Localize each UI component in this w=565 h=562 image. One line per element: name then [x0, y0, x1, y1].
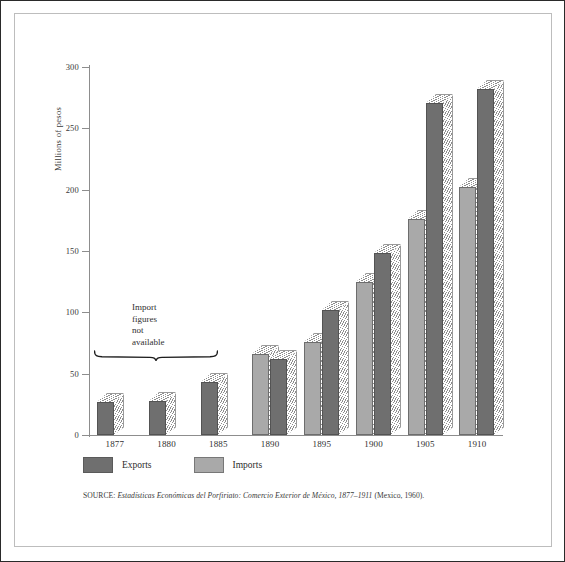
bar-exports-1910: [477, 89, 494, 435]
bar-group: [89, 67, 141, 435]
x-tick-label-1877: 1877: [89, 439, 141, 449]
bar-front-face: [477, 89, 494, 435]
bar-imports-1895: [304, 342, 321, 435]
bar-front-face: [304, 342, 321, 435]
bar-exports-1890: [270, 359, 287, 435]
bar-front-face: [408, 219, 425, 435]
bar-group: [296, 67, 348, 435]
legend: ExportsImports: [83, 457, 304, 473]
x-tick-label-1890: 1890: [244, 439, 296, 449]
y-tick-label: 250: [66, 123, 79, 133]
legend-label-exports: Exports: [122, 460, 152, 470]
bar-side-face: [494, 81, 504, 435]
y-tick-mark: [82, 435, 89, 436]
y-tick-mark: [82, 374, 89, 375]
x-tick-label-1895: 1895: [296, 439, 348, 449]
bar-group: [244, 67, 296, 435]
bar-imports-1910: [459, 187, 476, 435]
legend-swatch-exports: [83, 457, 113, 473]
bar-front-face: [97, 402, 114, 435]
bar-side-face: [218, 374, 228, 435]
legend-swatch-imports: [194, 457, 224, 473]
bar-exports-1885: [201, 382, 218, 435]
bar-front-face: [426, 103, 443, 435]
y-tick-mark: [82, 312, 89, 313]
x-axis-line: [89, 435, 503, 436]
source-title: Estadísticas Económicas del Porfiriato: …: [117, 491, 372, 500]
y-tick-mark: [82, 67, 89, 68]
annotation-line-0: Import: [132, 302, 164, 314]
x-tick-label-1910: 1910: [451, 439, 503, 449]
bar-imports-1905: [408, 219, 425, 435]
bar-group: [141, 67, 193, 435]
bar-exports-1880: [149, 401, 166, 435]
figure-outer-frame: Millions of pesos 050100150200250300 187…: [0, 0, 565, 562]
y-tick-mark: [82, 190, 89, 191]
annotation-line-1: figures: [132, 314, 164, 326]
bar-exports-1905: [426, 103, 443, 435]
bar-group: [451, 67, 503, 435]
source-note: SOURCE: Estadísticas Económicas del Porf…: [83, 491, 503, 500]
legend-label-imports: Imports: [233, 460, 263, 470]
legend-item-exports: Exports: [83, 457, 152, 473]
bar-group: [193, 67, 245, 435]
y-tick-label: 150: [66, 246, 79, 256]
bar-front-face: [356, 282, 373, 435]
bar-exports-1877: [97, 402, 114, 435]
y-tick-mark: [82, 251, 89, 252]
bar-front-face: [201, 382, 218, 435]
source-tail: (Mexico, 1960).: [374, 491, 424, 500]
bar-imports-1890: [252, 354, 269, 435]
bar-group: [400, 67, 452, 435]
bar-chart: Millions of pesos 050100150200250300 187…: [1, 1, 565, 562]
bar-front-face: [270, 359, 287, 435]
annotation-line-3: available: [132, 337, 164, 349]
annotation-brace: [94, 349, 218, 361]
bar-group: [348, 67, 400, 435]
bar-exports-1895: [322, 310, 339, 435]
y-tick-label: 0: [75, 430, 79, 440]
bar-front-face: [374, 253, 391, 435]
bar-front-face: [322, 310, 339, 435]
x-tick-label-1900: 1900: [348, 439, 400, 449]
x-tick-label-1905: 1905: [400, 439, 452, 449]
x-tick-label-1885: 1885: [193, 439, 245, 449]
bar-exports-1900: [374, 253, 391, 435]
legend-item-imports: Imports: [194, 457, 263, 473]
bars-container: [89, 67, 503, 435]
annotation-line-2: not: [132, 325, 164, 337]
y-tick-label: 50: [70, 369, 79, 379]
source-label: SOURCE:: [83, 491, 115, 500]
x-tick-label-1880: 1880: [141, 439, 193, 449]
bar-front-face: [252, 354, 269, 435]
y-tick-mark: [82, 128, 89, 129]
y-tick-label: 200: [66, 185, 79, 195]
bar-front-face: [459, 187, 476, 435]
bar-front-face: [149, 401, 166, 435]
bar-imports-1900: [356, 282, 373, 435]
import-figures-annotation: Importfiguresnotavailable: [132, 302, 164, 348]
y-axis-title: Millions of pesos: [53, 159, 63, 171]
y-tick-label: 100: [66, 307, 79, 317]
y-tick-label: 300: [66, 62, 79, 72]
